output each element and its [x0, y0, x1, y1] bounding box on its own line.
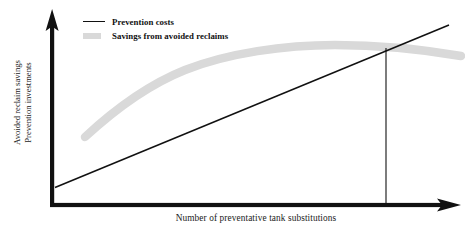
x-axis-line — [50, 203, 446, 207]
legend-line-key-icon — [82, 17, 106, 27]
chart-legend: Prevention costs Savings from avoided re… — [82, 15, 228, 43]
y-axis-line — [50, 20, 54, 207]
legend-item-prevention-costs: Prevention costs — [82, 15, 228, 29]
legend-item-savings-from-avoided-reclaims: Savings from avoided reclaims — [82, 29, 228, 43]
legend-item-label: Prevention costs — [112, 17, 174, 27]
chart-figure: Avoided reclaim savings Prevention inves… — [0, 0, 465, 239]
y-axis-label-line-1: Avoided reclaim savings — [12, 60, 23, 145]
y-axis-label: Avoided reclaim savings Prevention inves… — [0, 0, 44, 205]
x-axis-label: Number of preventative tank substitution… — [52, 213, 460, 223]
legend-item-label: Savings from avoided reclaims — [112, 31, 228, 41]
chart-plot-area — [0, 0, 465, 239]
legend-swatch-key-icon — [82, 31, 106, 41]
y-axis-label-line-2: Prevention investments — [22, 60, 33, 145]
series-savings-from-avoided-reclaims — [85, 45, 461, 137]
